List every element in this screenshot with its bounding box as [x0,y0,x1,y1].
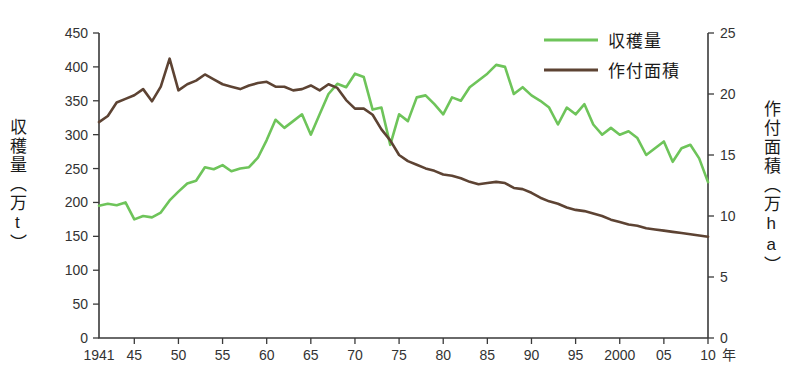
y-axis-right-tick-label: 10 [720,208,736,224]
y-axis-left-tick-label: 150 [65,228,89,244]
y-axis-right-tick-label: 25 [720,25,736,41]
x-axis-tick-label: 65 [303,347,319,363]
series-line-area [99,59,708,237]
x-axis-tick-label: 1941 [83,347,114,363]
series-group [99,59,708,237]
x-axis-tick-label: 60 [259,347,275,363]
x-axis-tick-label: 95 [568,347,584,363]
y-axis-left-tick-label: 350 [65,93,89,109]
y-axis-right-tick-label: 20 [720,86,736,102]
y-axis-right-tick-label: 15 [720,147,736,163]
x-axis-tick-label: 45 [127,347,143,363]
x-axis-tick-label: 80 [435,347,451,363]
y-axis-left-tick-label: 450 [65,25,89,41]
line-chart-plot: 4504003503002502001501005002520151050194… [0,0,801,389]
y-axis-left-tick-label: 100 [65,262,89,278]
x-axis-tick-label: 90 [524,347,540,363]
y-axis-right-tick-label: 5 [720,269,728,285]
x-axis-tick-label: 05 [656,347,672,363]
y-axis-left-tick-label: 200 [65,194,89,210]
chart-container: 収穫量（万t） 作付面積（万ha） 4504003503002502001501… [0,0,801,389]
legend-label-harvest: 収穫量 [608,32,662,51]
x-axis-tick-label: 2000 [604,347,635,363]
legend-label-area: 作付面積 [608,62,680,81]
x-axis-tick-label: 50 [171,347,187,363]
x-axis-tick-label: 55 [215,347,231,363]
x-axis-tick-label: 70 [347,347,363,363]
y-axis-left-tick-label: 50 [72,296,88,312]
x-axis-tick-label: 10 [700,347,716,363]
y-axis-left-tick-label: 0 [80,330,88,346]
y-axis-left-tick-label: 400 [65,59,89,75]
series-line-harvest [99,65,708,220]
x-axis-tick-label: 85 [480,347,496,363]
x-axis-unit-label: 年 [722,347,736,363]
y-axis-left-tick-label: 250 [65,161,89,177]
y-axis-left-tick-label: 300 [65,127,89,143]
y-axis-right-tick-label: 0 [720,330,728,346]
x-axis-tick-label: 75 [391,347,407,363]
chart-legend: 収穫量作付面積 [544,32,680,81]
